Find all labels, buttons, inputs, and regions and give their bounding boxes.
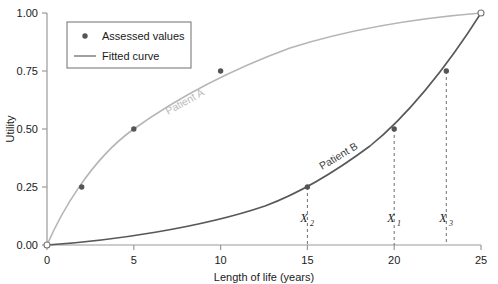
reference-label-x3: X 3 bbox=[438, 211, 453, 228]
reference-label-x1: X 1 bbox=[386, 211, 401, 228]
legend-marker-dot-icon bbox=[82, 33, 87, 38]
x-tick-label-5: 5 bbox=[131, 254, 137, 266]
patient-b-annotation: Patient B bbox=[317, 139, 360, 171]
x-tick-label-10: 10 bbox=[214, 254, 226, 266]
reference-label-x1-base: X bbox=[386, 211, 395, 225]
endpoint-top-marker bbox=[478, 10, 484, 16]
data-point bbox=[392, 126, 397, 131]
y-ticks bbox=[42, 13, 47, 245]
reference-label-x3-base: X bbox=[438, 211, 447, 225]
data-point bbox=[218, 68, 223, 73]
legend-label-fitted-curve: Fitted curve bbox=[102, 50, 159, 62]
data-point bbox=[131, 126, 136, 131]
x-tick-labels: 0 5 10 15 20 25 bbox=[44, 254, 487, 266]
x-ticks bbox=[47, 245, 481, 250]
x-tick-label-20: 20 bbox=[388, 254, 400, 266]
y-axis-title: Utility bbox=[4, 115, 16, 142]
x-tick-label-25: 25 bbox=[475, 254, 487, 266]
y-tick-label-100: 1.00 bbox=[17, 7, 38, 19]
data-point bbox=[79, 184, 84, 189]
reference-label-x2-sub: 2 bbox=[310, 219, 314, 228]
legend[interactable]: Assessed values Fitted curve bbox=[67, 22, 191, 68]
y-tick-label-075: 0.75 bbox=[17, 65, 38, 77]
utility-chart: 1.00 0.75 0.50 0.25 0.00 0 5 10 15 20 25… bbox=[0, 0, 498, 284]
endpoint-origin-marker bbox=[44, 242, 50, 248]
patient-a-annotation: Patient A bbox=[163, 86, 206, 117]
data-point bbox=[305, 184, 310, 189]
x-tick-label-15: 15 bbox=[301, 254, 313, 266]
chart-svg: 1.00 0.75 0.50 0.25 0.00 0 5 10 15 20 25… bbox=[0, 0, 498, 284]
y-tick-label-050: 0.50 bbox=[17, 123, 38, 135]
reference-label-x2: X 2 bbox=[299, 211, 314, 228]
y-tick-labels: 1.00 0.75 0.50 0.25 0.00 bbox=[17, 7, 38, 251]
reference-label-x3-sub: 3 bbox=[448, 219, 453, 228]
x-tick-label-0: 0 bbox=[44, 254, 50, 266]
reference-label-x1-sub: 1 bbox=[397, 219, 401, 228]
y-tick-label-025: 0.25 bbox=[17, 181, 38, 193]
y-tick-label-000: 0.00 bbox=[17, 239, 38, 251]
reference-label-x2-base: X bbox=[299, 211, 308, 225]
legend-label-assessed-values: Assessed values bbox=[102, 30, 185, 42]
data-point bbox=[444, 68, 449, 73]
x-axis-title: Length of life (years) bbox=[214, 271, 314, 283]
